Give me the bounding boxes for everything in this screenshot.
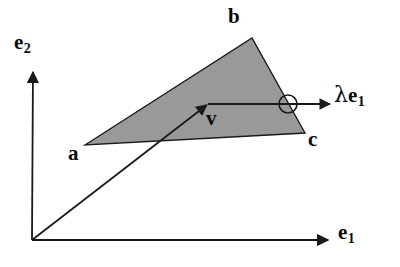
lambda-symbol: λ <box>334 82 348 107</box>
vector-label-lambda-e1-base: e <box>348 83 357 107</box>
vector-label-lambda-e1: λe1 <box>334 84 365 109</box>
axis-label-e1-subscript: 1 <box>347 231 355 246</box>
axis-label-e2-subscript: 2 <box>23 41 31 56</box>
axis-e2-arrow <box>32 72 33 240</box>
axis-label-e1-base: e <box>338 220 347 244</box>
figure-canvas: e2 e1 λe1 a b c v <box>0 0 400 267</box>
axis-label-e1: e1 <box>338 222 355 246</box>
axis-label-e2-base: e <box>14 30 23 54</box>
vector-label-v: v <box>206 108 217 129</box>
vertex-label-b: b <box>228 6 240 27</box>
vertex-label-c: c <box>308 129 317 150</box>
shaded-triangle <box>85 38 305 145</box>
axis-label-e2: e2 <box>14 32 31 56</box>
vector-label-lambda-e1-subscript: 1 <box>357 94 365 109</box>
vertex-label-a: a <box>68 143 79 164</box>
